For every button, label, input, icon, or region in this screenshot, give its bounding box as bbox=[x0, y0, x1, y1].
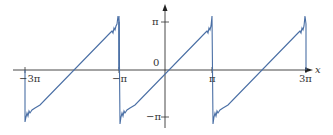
sawtooth-chart: −3π −π π 3π x 0 π −π bbox=[0, 0, 333, 135]
x-tick-label-negpi: −π bbox=[112, 73, 127, 84]
x-tick-label-neg3pi: −3π bbox=[19, 73, 41, 84]
x-tick-label-pi: π bbox=[209, 73, 216, 84]
x-axis-label: x bbox=[315, 64, 321, 75]
x-tick-label-3pi: 3π bbox=[299, 73, 312, 84]
y-axis-arrow-icon bbox=[163, 4, 168, 11]
y-tick-label-pi: π bbox=[152, 16, 159, 27]
y-tick-label-neg-pi: −π bbox=[146, 111, 161, 122]
origin-label: 0 bbox=[153, 57, 159, 68]
